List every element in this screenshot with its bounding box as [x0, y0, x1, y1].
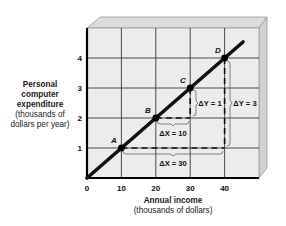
y-axis-units-line-1: (thousands of	[0, 110, 80, 120]
point-c	[187, 85, 194, 92]
point-label-b: B	[145, 106, 151, 115]
x-axis-title: Annual income (thousands of dollars)	[87, 196, 259, 216]
y-axis-title-line-1: Personal	[0, 80, 80, 90]
x-tick-30: 30	[186, 184, 195, 193]
delta-y-1-label: ΔY = 1	[198, 99, 222, 108]
point-label-c: C	[180, 76, 186, 85]
x-axis-title-units: (thousands of dollars)	[87, 206, 259, 216]
point-a	[118, 145, 125, 152]
y-tick-1: 1	[78, 144, 83, 153]
x-tick-0: 0	[85, 184, 90, 193]
delta-y-3-label: ΔY = 3	[233, 99, 256, 108]
y-axis-title-line-3: expenditure	[0, 100, 80, 110]
x-tick-10: 10	[117, 184, 126, 193]
x-axis-title-main: Annual income	[87, 196, 259, 206]
point-b	[152, 115, 159, 122]
y-axis-units-line-2: dollars per year)	[0, 120, 80, 130]
y-tick-4: 4	[78, 54, 83, 63]
point-label-d: D	[215, 46, 221, 55]
x-tick-20: 20	[151, 184, 160, 193]
point-label-a: A	[110, 136, 117, 145]
y-axis-title: Personal computer expenditure (thousands…	[0, 80, 80, 130]
box-top-face	[87, 17, 267, 28]
x-tick-40: 40	[220, 184, 229, 193]
box-right-face	[259, 17, 267, 178]
delta-x-10-label: ΔX = 10	[159, 129, 187, 138]
y-axis-title-line-2: computer	[0, 90, 80, 100]
delta-x-30-label: ΔX = 30	[159, 159, 187, 168]
point-d	[221, 55, 228, 62]
